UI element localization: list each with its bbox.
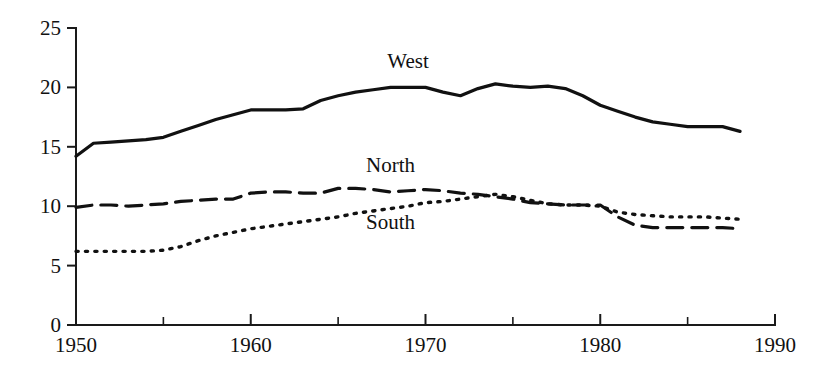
y-axis-label-10: 10 <box>40 194 61 218</box>
y-axis-label-20: 20 <box>40 75 61 99</box>
x-axis-label-1990: 1990 <box>754 333 796 357</box>
series-label-north: North <box>366 153 415 177</box>
x-axis-label-1950: 1950 <box>55 333 97 357</box>
x-axis-label-1970: 1970 <box>405 333 447 357</box>
y-axis-label-5: 5 <box>51 254 62 278</box>
chart-container: 0510152025 19501960197019801990 WestNort… <box>0 0 834 387</box>
x-axis-label-1960: 1960 <box>230 333 272 357</box>
series-label-south: South <box>366 210 416 234</box>
series-label-west: West <box>387 49 429 73</box>
x-axis-label-1980: 1980 <box>579 333 621 357</box>
y-axis-label-15: 15 <box>40 135 61 159</box>
y-axis-label-25: 25 <box>40 16 61 40</box>
line-chart: 0510152025 19501960197019801990 WestNort… <box>0 0 834 387</box>
